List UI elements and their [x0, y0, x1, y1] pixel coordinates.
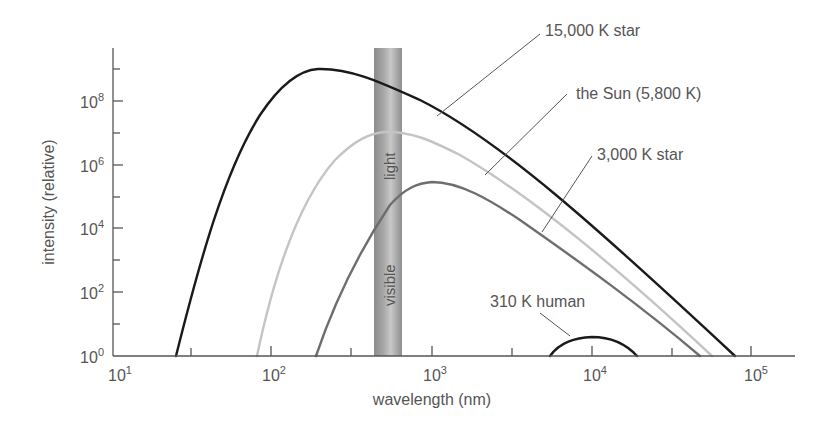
label-15000k-star: 15,000 K star: [545, 22, 641, 39]
x-tick-labels: 101 102 103 104 105: [108, 364, 768, 384]
y-axis-title: intensity (relative): [40, 139, 57, 264]
blackbody-chart: visible light 15,000 K star the Sun (5,8…: [0, 0, 820, 440]
svg-text:100: 100: [80, 346, 104, 366]
curve-sun: [257, 132, 712, 356]
band-label-visible: visible: [381, 264, 398, 306]
svg-text:102: 102: [80, 282, 104, 302]
label-3000k-star: 3,000 K star: [597, 146, 684, 163]
curve-15000k-star: [176, 69, 735, 356]
band-label-light: light: [381, 152, 398, 180]
curves: [176, 69, 735, 356]
svg-text:105: 105: [744, 364, 768, 384]
svg-text:106: 106: [80, 155, 104, 175]
svg-text:102: 102: [262, 364, 286, 384]
svg-text:108: 108: [80, 91, 104, 111]
svg-text:104: 104: [583, 364, 607, 384]
curve-310k-human: [550, 337, 637, 356]
svg-text:101: 101: [108, 364, 132, 384]
svg-text:103: 103: [423, 364, 447, 384]
leader-lines: [437, 34, 592, 336]
visible-light-band: visible light: [374, 48, 402, 356]
label-310k-human: 310 K human: [490, 293, 585, 310]
svg-text:104: 104: [80, 218, 104, 238]
x-axis-title: wavelength (nm): [372, 391, 491, 408]
label-sun: the Sun (5,800 K): [576, 85, 701, 102]
y-tick-labels: 108 106 104 102 100: [80, 91, 104, 366]
curve-3000k-star: [316, 182, 700, 356]
